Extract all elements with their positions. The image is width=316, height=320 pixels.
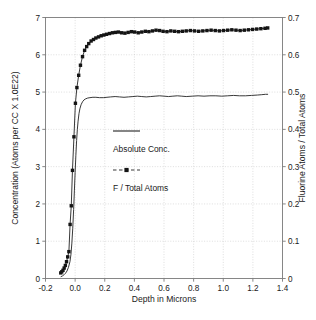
series-marker-2 (266, 26, 269, 29)
series-marker-2 (189, 29, 192, 32)
y-axis-title-left: Concentration (Atoms per CC X 1.0E22) (10, 71, 20, 224)
series-marker-2 (154, 28, 157, 31)
series-marker-2 (117, 30, 120, 33)
series-marker-2 (226, 28, 229, 31)
y-tick-label-right: 0.6 (288, 51, 300, 60)
series-marker-2 (133, 30, 136, 33)
y-tick-label-left: 6 (35, 51, 40, 60)
x-axis-title: Depth in Microns (132, 294, 196, 304)
y-tick-label-left: 7 (35, 14, 40, 23)
legend-label-absolute-conc: Absolute Conc. (113, 144, 170, 154)
series-marker-2 (173, 30, 176, 33)
x-tick-label: 0.6 (158, 284, 170, 293)
series-marker-2 (71, 169, 74, 172)
series-marker-2 (75, 86, 78, 89)
x-tick-label: 1.0 (218, 284, 230, 293)
series-marker-2 (77, 74, 80, 77)
y-tick-label-left: 2 (35, 200, 40, 209)
x-tick-label: 1.2 (247, 284, 259, 293)
x-tick-label: -0.2 (38, 284, 53, 293)
series-marker-2 (193, 29, 196, 32)
series-marker-2 (144, 30, 147, 33)
y-tick-label-right: 0 (288, 275, 293, 284)
series-marker-2 (70, 204, 73, 207)
series-marker-2 (238, 29, 241, 32)
x-tick-label: 0.4 (129, 284, 141, 293)
series-marker-2 (255, 27, 258, 30)
series-marker-2 (81, 55, 84, 58)
series-marker-2 (79, 64, 82, 67)
series-marker-2 (105, 33, 108, 36)
series-marker-2 (83, 49, 86, 52)
series-marker-2 (111, 31, 114, 34)
series-marker-2 (126, 31, 129, 34)
series-marker-2 (218, 29, 221, 32)
y-tick-label-left: 5 (35, 88, 40, 97)
series-marker-2 (85, 45, 88, 48)
series-marker-2 (185, 29, 188, 32)
y-tick-label-left: 0 (35, 275, 40, 284)
series-marker-2 (209, 28, 212, 31)
y-tick-label-left: 1 (35, 237, 40, 246)
y-tick-label-right: 0.1 (288, 237, 300, 246)
series-marker-2 (66, 255, 69, 258)
series-marker-2 (158, 29, 161, 32)
series-marker-2 (64, 264, 67, 267)
series-marker-2 (230, 28, 233, 31)
series-marker-2 (140, 30, 143, 33)
series-marker-2 (251, 28, 254, 31)
x-tick-label: 0.0 (69, 284, 81, 293)
series-marker-2 (137, 31, 140, 34)
series-marker-2 (222, 29, 225, 32)
series-marker-2 (247, 28, 250, 31)
series-marker-2 (214, 29, 217, 32)
series-marker-2 (74, 102, 77, 105)
series-marker-2 (201, 29, 204, 32)
series-marker-2 (151, 29, 154, 32)
x-tick-label: 0.8 (188, 284, 200, 293)
legend-sample-marker-f-total-atoms (124, 168, 128, 172)
series-marker-2 (72, 135, 75, 138)
series-marker-2 (147, 30, 150, 33)
series-marker-2 (169, 29, 172, 32)
series-marker-2 (161, 30, 164, 33)
series-marker-2 (114, 31, 117, 34)
series-marker-2 (205, 29, 208, 32)
x-tick-label: 1.4 (277, 284, 289, 293)
series-marker-2 (130, 30, 133, 33)
series-marker-2 (177, 30, 180, 33)
chart-figure: -0.20.00.20.40.60.81.01.21.40123456700.1… (0, 0, 316, 320)
series-marker-2 (123, 31, 126, 34)
y-tick-label-right: 0.7 (288, 14, 300, 23)
concentration-depth-chart: -0.20.00.20.40.60.81.01.21.40123456700.1… (0, 0, 316, 320)
x-tick-label: 0.2 (99, 284, 111, 293)
y-tick-label-left: 3 (35, 163, 40, 172)
series-marker-2 (165, 30, 168, 33)
y-axis-title-right: Fluorine Atoms / Total Atoms (297, 94, 307, 203)
series-marker-2 (68, 223, 71, 226)
y-tick-label-left: 4 (35, 125, 40, 134)
series-marker-2 (181, 30, 184, 33)
series-marker-2 (259, 27, 262, 30)
series-marker-2 (243, 28, 246, 31)
series-marker-2 (234, 28, 237, 31)
series-marker-2 (197, 30, 200, 33)
series-marker-2 (120, 31, 123, 34)
series-marker-2 (67, 250, 70, 253)
legend-label-f-total-atoms: F / Total Atoms (113, 183, 168, 193)
series-marker-2 (65, 260, 68, 263)
series-marker-2 (108, 32, 111, 35)
chart-background (0, 0, 316, 320)
